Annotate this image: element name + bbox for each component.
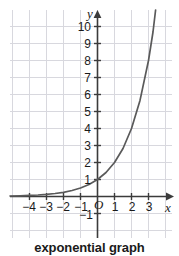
- y-tick-label-5: 5: [84, 105, 91, 119]
- coordinate-plane: 10 9 8 7 6 5 4 3 2 1 −1 −4 −3 −2 −1 1 2 …: [0, 0, 179, 256]
- x-tick-label-2: 2: [129, 200, 136, 214]
- x-tick-label-3: 3: [146, 200, 153, 214]
- x-tick-label-1: 1: [112, 200, 119, 214]
- y-tick-label-3: 3: [84, 139, 91, 153]
- y-tick-label-2: 2: [84, 156, 91, 170]
- x-tick-label-neg3: −3: [39, 200, 53, 214]
- x-tick-labels: −4 −3 −2 −1 1 2 3: [22, 200, 153, 214]
- x-tick-label-neg2: −2: [56, 200, 70, 214]
- y-tick-label-4: 4: [84, 122, 91, 136]
- y-tick-label-1: 1: [84, 173, 91, 187]
- y-tick-label-8: 8: [84, 54, 91, 68]
- y-tick-label-10: 10: [78, 20, 92, 34]
- figure-caption: exponential graph: [0, 240, 179, 255]
- x-axis-label: x: [164, 200, 171, 215]
- y-tick-label-7: 7: [84, 71, 91, 85]
- exponential-graph-figure: 10 9 8 7 6 5 4 3 2 1 −1 −4 −3 −2 −1 1 2 …: [0, 0, 179, 256]
- y-axis-label: y: [85, 6, 93, 21]
- x-tick-label-neg1: −1: [74, 200, 88, 214]
- x-tick-label-neg4: −4: [22, 200, 36, 214]
- y-tick-label-9: 9: [84, 37, 91, 51]
- y-tick-label-6: 6: [84, 88, 91, 102]
- origin-label: O: [94, 197, 104, 212]
